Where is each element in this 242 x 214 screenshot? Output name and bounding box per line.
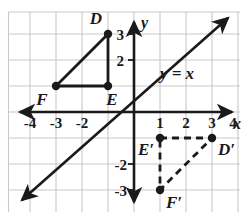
vertex-label-f-prime: F′ <box>165 193 182 212</box>
line-equation-label: y = x <box>158 64 195 83</box>
x-tick-label-3: 3 <box>208 115 216 131</box>
x-tick-label-neg3: -3 <box>50 115 63 131</box>
y-tick-label-neg3: -3 <box>115 183 128 199</box>
x-tick-label-1: 1 <box>156 115 164 131</box>
y-tick-label-neg2: -2 <box>115 157 128 173</box>
vertex-label-f: F <box>35 90 48 109</box>
x-tick-label-neg4: -4 <box>24 115 37 131</box>
x-axis-label: x <box>232 115 241 132</box>
vertex-label-d-prime: D′ <box>217 140 235 159</box>
vertex-label-e: E <box>105 90 117 109</box>
point-d <box>104 30 112 38</box>
point-f-prime <box>156 186 164 194</box>
point-e-prime <box>156 134 164 142</box>
vertex-label-d: D <box>89 9 102 28</box>
y-axis-label: y <box>139 14 149 32</box>
reflection-over-y-equals-x-graph: -4 -3 -2 1 2 3 4 3 2 -2 -3 y x D E F D′ … <box>0 0 242 214</box>
x-tick-label-2: 2 <box>182 115 190 131</box>
y-tick-label-2: 2 <box>117 53 125 69</box>
x-tick-label-neg2: -2 <box>76 115 89 131</box>
point-f <box>52 82 60 90</box>
vertex-label-e-prime: E′ <box>137 140 154 159</box>
y-tick-label-3: 3 <box>117 27 125 43</box>
coordinate-plane-figure: -4 -3 -2 1 2 3 4 3 2 -2 -3 y x D E F D′ … <box>0 0 242 214</box>
point-d-prime <box>208 134 216 142</box>
point-e <box>104 82 112 90</box>
